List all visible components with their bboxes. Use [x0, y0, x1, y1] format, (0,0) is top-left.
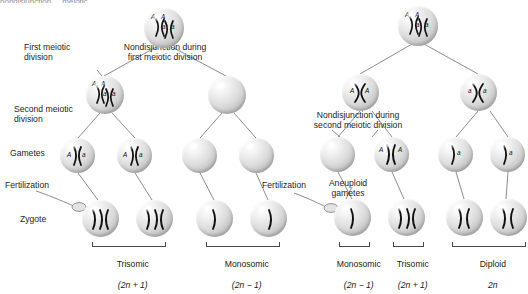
chromosomes-gamete-right-2 — [374, 137, 409, 172]
cell-first-division-left-a: A A a a — [86, 76, 124, 114]
label-second-meiotic-division: Second meiotic division — [14, 104, 73, 124]
chromosomes-zygote-right-3 — [446, 199, 483, 236]
cell-parent-right: A A a a — [398, 6, 438, 46]
zygote-left-4-monosomic — [250, 200, 287, 237]
allele-label: a — [112, 91, 116, 97]
allele-label: a — [425, 22, 429, 28]
allele-label: A — [398, 147, 402, 153]
outcome-formula: (2n + 1) — [398, 280, 428, 290]
chromosomes-first-division-right-b — [460, 74, 497, 111]
allele-label: A — [365, 88, 369, 94]
allele-label: A — [379, 147, 383, 153]
chromosomes-zygote-right-4 — [490, 199, 527, 236]
allele-label: a — [139, 152, 143, 158]
allele-label: a — [483, 88, 487, 94]
caption-diploid-right: Diploid 2n — [442, 249, 528, 294]
zygote-left-2-trisomic — [136, 200, 173, 237]
allele-label: A — [415, 12, 419, 18]
bracket-monosomic-right — [339, 242, 370, 247]
allele-label: A — [101, 81, 105, 87]
gamete-left-1: A a — [60, 138, 95, 173]
allele-label: A — [405, 12, 409, 18]
gamete-left-3-empty — [182, 138, 217, 173]
allele-label: A — [350, 88, 354, 94]
zygote-left-1-trisomic — [82, 200, 119, 237]
cell-first-division-right-b: a a — [460, 74, 497, 111]
gamete-right-1-empty — [320, 137, 355, 172]
caption-trisomic-right: Trisomic (2n + 1) — [370, 249, 446, 294]
sperm-left — [36, 191, 86, 211]
zygote-left-3-monosomic — [196, 200, 233, 237]
callout-nondisjunction-second: Nondisjunction during second meiotic div… — [288, 110, 428, 130]
allele-label: a — [509, 150, 513, 156]
chromosomes-zygote-left-3 — [196, 200, 233, 237]
zygote-right-3-diploid — [446, 199, 483, 236]
cell-parent-left: A A a a — [144, 8, 184, 48]
label-fertilization-right: Fertilization — [262, 180, 306, 190]
allele-label: a — [416, 22, 420, 28]
allele-label: A — [151, 14, 155, 20]
allele-label: a — [457, 150, 461, 156]
allele-label: a — [162, 24, 166, 30]
label-zygote: Zygote — [20, 214, 46, 224]
caption-trisomic-left: Trisomic (2n + 1) — [82, 249, 174, 294]
label-first-meiotic-division: First meiotic division — [24, 42, 70, 62]
outcome-name: Trisomic — [117, 259, 149, 269]
allele-label: A — [161, 14, 165, 20]
outcome-formula: (2n − 1) — [232, 280, 262, 290]
gamete-right-2-disomic: A A — [374, 137, 409, 172]
chromosomes-zygote-left-4 — [250, 200, 287, 237]
zygote-right-4-diploid — [490, 199, 527, 236]
clipped-top-caption: nondisjunction ... meiotic ... — [0, 0, 230, 3]
zygote-right-1-monosomic — [334, 199, 371, 236]
outcome-name: Diploid — [480, 259, 506, 269]
bracket-monosomic-left — [206, 242, 280, 247]
bracket-trisomic-right — [393, 242, 424, 247]
chromosomes-zygote-left-1 — [82, 200, 119, 237]
chromosomes-gamete-left-1 — [60, 138, 95, 173]
caption-monosomic-left: Monosomic (2n − 1) — [196, 249, 288, 294]
zygote-right-2-trisomic — [388, 199, 425, 236]
chromosomes-zygote-right-2 — [388, 199, 425, 236]
outcome-formula: 2n — [488, 280, 498, 290]
label-fertilization-left: Fertilization — [5, 180, 49, 190]
callout-aneuploid-gametes: Aneuploid gametes — [318, 178, 378, 198]
gamete-right-3: a — [438, 137, 473, 172]
outcome-formula: (2n + 1) — [118, 280, 148, 290]
allele-label: a — [468, 88, 472, 94]
gamete-left-2: A a — [117, 138, 152, 173]
chromosomes-gamete-right-4 — [490, 137, 525, 172]
allele-label: A — [123, 152, 127, 158]
bracket-diploid-right — [452, 242, 526, 247]
allele-label: a — [171, 24, 175, 30]
label-gametes: Gametes — [10, 148, 45, 158]
bracket-trisomic-left — [92, 242, 166, 247]
chromosomes-first-division-right-a — [342, 74, 379, 111]
allele-label: a — [103, 91, 107, 97]
cell-first-division-left-b-empty — [208, 76, 246, 114]
allele-label: a — [82, 152, 86, 158]
allele-label: A — [92, 81, 96, 87]
outcome-name: Trisomic — [397, 259, 429, 269]
outcome-name: Monosomic — [225, 259, 269, 269]
chromosomes-gamete-right-3 — [438, 137, 473, 172]
gamete-left-4-empty — [239, 138, 274, 173]
chromosomes-zygote-right-1 — [334, 199, 371, 236]
gamete-right-4: a — [490, 137, 525, 172]
cell-first-division-right-a: A A — [342, 74, 379, 111]
chromosomes-zygote-left-2 — [136, 200, 173, 237]
allele-label: A — [67, 152, 71, 158]
